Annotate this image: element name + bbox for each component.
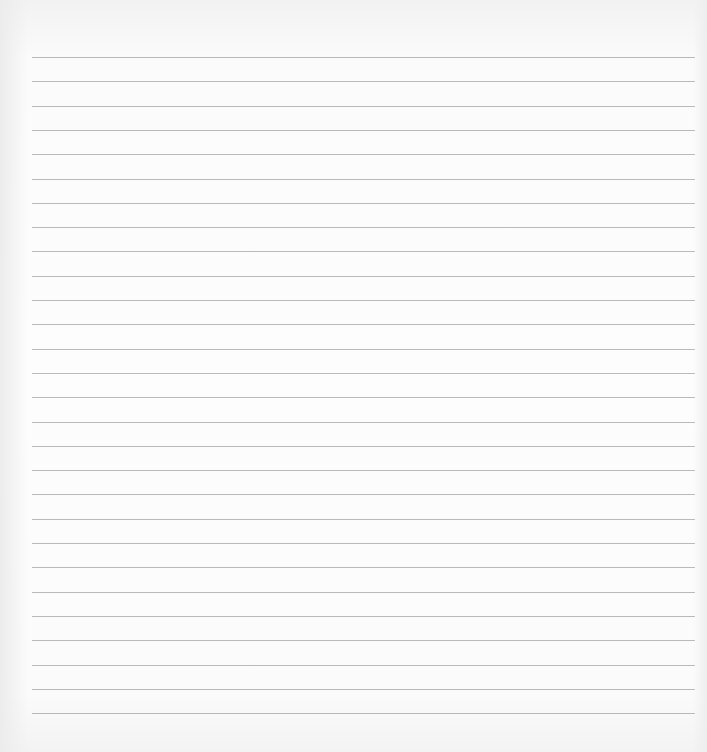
- ruled-line: [32, 106, 695, 107]
- ruled-line: [32, 57, 695, 58]
- ruled-line: [32, 422, 695, 423]
- ruled-line: [32, 713, 695, 714]
- ruled-line: [32, 130, 695, 131]
- ruled-line: [32, 179, 695, 180]
- ruled-line: [32, 519, 695, 520]
- ruled-line: [32, 689, 695, 690]
- ruled-line: [32, 616, 695, 617]
- ruled-line: [32, 567, 695, 568]
- ruled-line: [32, 446, 695, 447]
- ruled-line: [32, 494, 695, 495]
- ruled-line: [32, 373, 695, 374]
- ruled-line: [32, 227, 695, 228]
- ruled-line: [32, 276, 695, 277]
- ruled-line: [32, 251, 695, 252]
- ruled-line: [32, 324, 695, 325]
- ruled-line: [32, 640, 695, 641]
- ruled-line: [32, 470, 695, 471]
- ruled-line: [32, 592, 695, 593]
- ruled-line: [32, 349, 695, 350]
- ruled-line: [32, 300, 695, 301]
- ruled-line: [32, 81, 695, 82]
- lined-paper-sheet: [0, 0, 707, 752]
- ruled-line: [32, 665, 695, 666]
- ruled-line: [32, 203, 695, 204]
- ruled-line: [32, 154, 695, 155]
- ruled-line: [32, 543, 695, 544]
- ruled-line: [32, 397, 695, 398]
